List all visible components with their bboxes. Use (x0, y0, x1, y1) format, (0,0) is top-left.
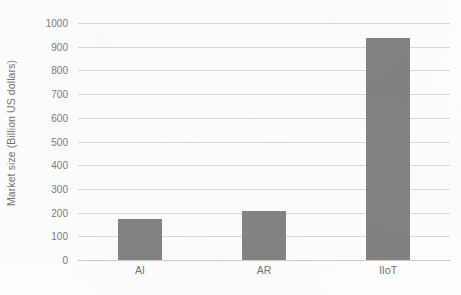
y-tick-label-600: 600 (51, 112, 68, 123)
y-tick-label-1000: 1000 (46, 18, 68, 29)
bars-layer (78, 23, 450, 260)
bar-iiot (366, 38, 410, 260)
bar-ar (242, 211, 286, 260)
gridline-0 (78, 260, 450, 261)
y-tick-label-500: 500 (51, 136, 68, 147)
y-axis-tick-labels: 01002003004005006007008009001000 (22, 0, 74, 295)
bar-chart: Market size (Billion US dollars) 0100200… (0, 0, 461, 295)
x-axis-tick-labels: AIARIIoT (78, 264, 450, 286)
y-axis-title-text: Market size (Billion US dollars) (5, 59, 17, 205)
x-tick-label-iiot: IIoT (379, 264, 397, 276)
y-tick-label-300: 300 (51, 183, 68, 194)
x-tick-label-ar: AR (257, 264, 272, 276)
y-tick-label-900: 900 (51, 41, 68, 52)
y-tick-label-700: 700 (51, 89, 68, 100)
y-tick-label-400: 400 (51, 160, 68, 171)
y-tick-label-100: 100 (51, 231, 68, 242)
y-axis-title: Market size (Billion US dollars) (0, 0, 22, 265)
plot-area (78, 23, 450, 260)
y-tick-label-200: 200 (51, 207, 68, 218)
x-tick-label-ai: AI (135, 264, 145, 276)
bar-ai (118, 219, 162, 260)
y-tick-label-800: 800 (51, 65, 68, 76)
y-tick-label-0: 0 (62, 255, 68, 266)
